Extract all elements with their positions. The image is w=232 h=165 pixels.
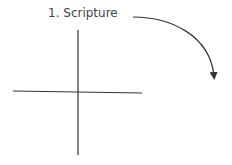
curved-arrow-icon bbox=[133, 17, 214, 76]
diagram-canvas bbox=[0, 0, 232, 165]
